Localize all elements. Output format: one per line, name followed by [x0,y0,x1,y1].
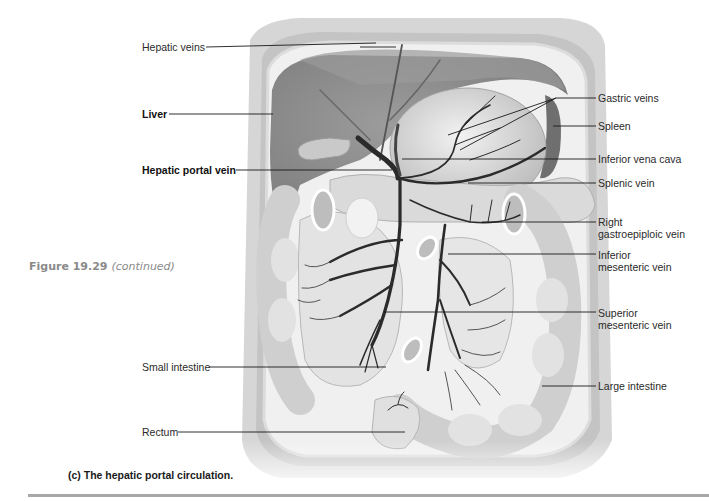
label-inferior-mesenteric-vein: Inferior mesenteric vein [598,249,672,273]
illustration-fade [240,440,620,485]
label-gastric-veins: Gastric veins [598,92,659,104]
label-right-gastroepiploic-vein: Right gastroepiploic vein [598,216,685,240]
label-splenic-vein: Splenic vein [598,177,655,189]
figure-number: Figure 19.29(continued) [29,260,175,273]
label-large-intestine: Large intestine [598,380,667,392]
figure-caption: (c) The hepatic portal circulation. [68,469,233,481]
pancreas-lobules [346,198,378,238]
figure-continued-text: (continued) [112,260,175,273]
label-hepatic-veins: Hepatic veins [142,41,205,53]
label-hepatic-portal-vein: Hepatic portal vein [142,164,236,176]
label-liver: Liver [142,108,167,120]
label-small-intestine: Small intestine [142,361,210,373]
bottom-divider [28,494,709,497]
label-superior-mesenteric-vein: Superior mesenteric vein [598,307,672,331]
label-rectum: Rectum [142,426,178,438]
label-spleen: Spleen [598,120,631,132]
figure-number-text: Figure 19.29 [29,260,108,273]
label-inferior-vena-cava: Inferior vena cava [598,153,681,165]
